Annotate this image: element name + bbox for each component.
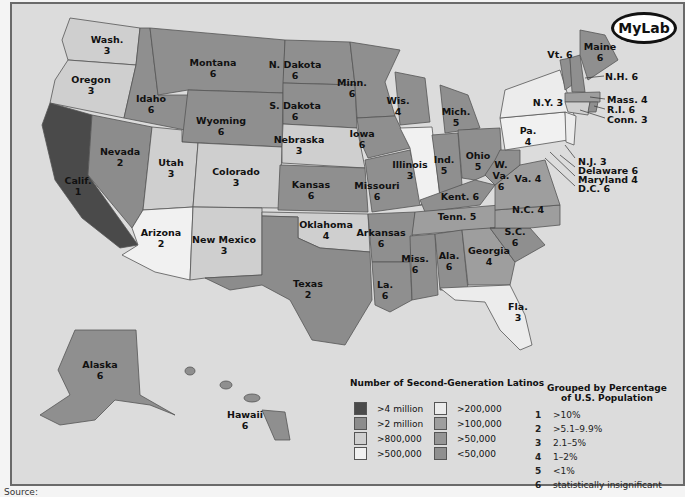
swatch-2m xyxy=(354,417,367,430)
label-calif: Calif. 1 xyxy=(64,175,91,197)
label-idaho: Idaho 6 xyxy=(136,93,166,115)
group-2: 2>5.1–9.9% xyxy=(535,424,602,434)
label-oregon: Oregon 3 xyxy=(71,74,110,96)
label-wva: W. Va. 6 xyxy=(493,159,510,192)
group-3: 32.1–5% xyxy=(535,438,586,448)
label-sc: S.C. 6 xyxy=(504,226,525,248)
group-1: 1>10% xyxy=(535,410,581,420)
state-mass xyxy=(565,92,600,102)
label-la: La. 6 xyxy=(377,279,393,301)
label-texas: Texas 2 xyxy=(293,278,323,300)
label-montana: Montana 6 xyxy=(190,57,237,79)
legend-item-2m: >2 million xyxy=(354,417,423,430)
legend-group-title: Grouped by Percentage of U.S. Population xyxy=(547,383,667,403)
label-nh: N.H. 6 xyxy=(605,71,638,82)
label-minn: Minn. 6 xyxy=(337,77,367,99)
label-utah: Utah 3 xyxy=(158,157,183,179)
label-illinois: Illinois 3 xyxy=(392,159,428,181)
label-oklahoma: Oklahoma 4 xyxy=(299,219,353,241)
label-wyoming: Wyoming 6 xyxy=(196,115,246,137)
legend-item-800k: >800,000 xyxy=(354,432,422,445)
swatch-500k xyxy=(354,447,367,460)
state-hawaii-oahu xyxy=(220,381,232,389)
legend-item-100k: >100,000 xyxy=(434,417,502,430)
label-arkansas: Arkansas 6 xyxy=(356,227,405,249)
label-maine: Maine 6 xyxy=(584,41,616,63)
swatch-100k xyxy=(434,417,447,430)
swatch-50k xyxy=(434,432,447,445)
group-6: 6statistically insignificant xyxy=(535,480,662,490)
swatch-200k xyxy=(434,402,447,415)
label-arizona: Arizona 2 xyxy=(141,227,182,249)
legend-count-title: Number of Second-Generation Latinos xyxy=(350,378,544,388)
source-note: Source: xyxy=(4,487,38,497)
legend-item-lt50k: <50,000 xyxy=(434,447,496,460)
label-nebraska: Nebraska 3 xyxy=(274,134,325,156)
swatch-800k xyxy=(354,432,367,445)
mylab-logo[interactable]: MyLab xyxy=(611,12,677,44)
swatch-lt50k xyxy=(434,447,447,460)
label-iowa: Iowa 6 xyxy=(349,128,374,150)
label-ala: Ala. 6 xyxy=(439,250,460,272)
label-nevada: Nevada 2 xyxy=(100,146,140,168)
label-ind: Ind. 5 xyxy=(434,154,455,176)
label-mich: Mich. 5 xyxy=(442,106,471,128)
label-dc: D.C. 6 xyxy=(578,183,610,194)
label-kent: Kent. 6 xyxy=(441,191,479,202)
label-wis: Wis. 4 xyxy=(387,95,410,117)
label-georgia: Georgia 4 xyxy=(468,245,510,267)
swatch-4m xyxy=(354,402,367,415)
label-colorado: Colorado 3 xyxy=(212,166,260,188)
group-4: 41–2% xyxy=(535,452,578,462)
label-nc: N.C. 4 xyxy=(512,204,544,215)
label-kansas: Kansas 6 xyxy=(292,179,330,201)
group-5: 5<1% xyxy=(535,466,575,476)
label-wash: Wash. 3 xyxy=(91,34,124,56)
label-miss: Miss. 6 xyxy=(401,253,429,275)
label-ohio: Ohio 5 xyxy=(466,150,491,172)
legend-item-4m: >4 million xyxy=(354,402,423,415)
label-fla: Fla. 3 xyxy=(508,301,528,323)
state-hawaii-kauai xyxy=(185,367,195,375)
label-ny: N.Y. 3 xyxy=(533,97,563,108)
legend-item-200k: >200,000 xyxy=(434,402,502,415)
state-hawaii-maui xyxy=(244,394,260,402)
label-alaska: Alaska 6 xyxy=(82,359,117,381)
label-conn: Conn. 3 xyxy=(607,114,648,125)
label-missouri: Missouri 6 xyxy=(354,180,399,202)
label-va: Va. 4 xyxy=(515,173,542,184)
label-sdakota: S. Dakota 6 xyxy=(269,100,321,122)
logo-text: MyLab xyxy=(614,15,674,41)
label-tenn: Tenn. 5 xyxy=(438,211,477,222)
label-vt: Vt. 6 xyxy=(547,49,572,60)
label-pa: Pa. 4 xyxy=(520,125,537,147)
state-nj xyxy=(565,112,576,145)
legend-item-500k: >500,000 xyxy=(354,447,422,460)
legend-item-50k: >50,000 xyxy=(434,432,496,445)
state-hawaii-main xyxy=(262,410,290,440)
label-newmexico: New Mexico 3 xyxy=(192,234,256,256)
label-hawaii: Hawaii 6 xyxy=(227,409,263,431)
label-ndakota: N. Dakota 6 xyxy=(269,59,322,81)
